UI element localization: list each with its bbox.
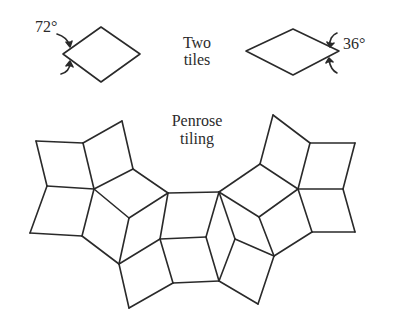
tile-edge xyxy=(129,283,173,308)
tile-edge xyxy=(94,169,133,189)
tile-edge xyxy=(82,236,119,264)
tile-edge xyxy=(82,189,94,236)
tile-edge xyxy=(94,189,129,218)
tile-edge xyxy=(36,141,83,143)
tile-edge xyxy=(343,143,355,189)
tile-edge xyxy=(160,237,206,239)
tile-edge xyxy=(122,121,133,169)
tile-edge xyxy=(119,264,129,308)
tile-edge xyxy=(173,281,219,283)
tile-edge xyxy=(260,164,298,189)
tile-edge xyxy=(129,193,168,218)
tile-edge xyxy=(298,189,312,232)
tile-edge xyxy=(219,239,235,281)
angle-72-label: 72° xyxy=(35,18,57,36)
tile-edge xyxy=(219,192,259,217)
tile-edge xyxy=(219,281,258,304)
tile-edge xyxy=(36,141,47,186)
tile-edge xyxy=(160,239,173,283)
tile-edge xyxy=(343,189,355,232)
tile-edge xyxy=(83,121,122,143)
tiles-caption-line1: Two xyxy=(172,34,222,52)
tiles-caption-line2: tiles xyxy=(172,51,222,69)
tile-edge xyxy=(274,232,312,256)
thin-rhombus-tile xyxy=(246,29,339,75)
tile-edge xyxy=(119,218,129,264)
tile-edge xyxy=(258,256,274,304)
tile-edge xyxy=(47,186,94,189)
thick-rhombus-tile xyxy=(63,27,140,82)
tile-edge xyxy=(160,193,168,239)
tile-edge xyxy=(30,186,47,233)
tile-edge xyxy=(119,239,160,264)
tile-edge xyxy=(298,143,310,189)
tile-edge xyxy=(168,192,219,193)
tile-edge xyxy=(206,237,219,281)
thick-angle-arrows xyxy=(57,34,73,74)
tile-edge xyxy=(219,164,260,192)
tile-edge xyxy=(206,192,219,237)
tile-edge xyxy=(219,192,235,239)
tile-edge xyxy=(260,115,273,164)
tiling-caption-line2: tiling xyxy=(155,130,239,148)
tile-edge xyxy=(30,233,82,236)
tile-edge xyxy=(273,115,310,143)
tile-edge xyxy=(259,189,298,217)
tiling-caption-line1: Penrose xyxy=(155,112,239,130)
tile-edge xyxy=(83,143,94,189)
tile-edge xyxy=(133,169,168,193)
angle-36-label: 36° xyxy=(343,35,365,53)
